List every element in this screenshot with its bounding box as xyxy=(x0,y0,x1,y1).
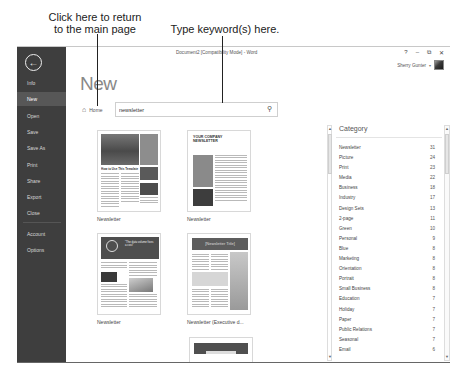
category-item-print[interactable]: Print23 xyxy=(339,163,435,173)
sidebar-item-options[interactable]: Options xyxy=(17,243,66,257)
scroll-down-icon[interactable]: ▼ xyxy=(445,355,449,359)
category-item-design-sets[interactable]: Design Sets13 xyxy=(339,204,435,214)
search-icon[interactable]: ⚲ xyxy=(267,105,272,113)
category-header: Category xyxy=(339,125,367,132)
page-title: New xyxy=(80,73,117,95)
sidebar-item-share[interactable]: Share xyxy=(17,174,66,188)
template-label: Newsletter xyxy=(97,319,121,325)
sidebar-divider xyxy=(23,222,61,223)
home-callout-line1: Click here to return xyxy=(40,11,150,23)
sidebar-item-close[interactable]: Close xyxy=(17,206,66,220)
back-button[interactable]: ← xyxy=(25,54,42,71)
scroll-up-icon[interactable]: ▲ xyxy=(445,127,449,131)
template-thumbnail: How to Use This Template xyxy=(97,130,161,212)
window-controls: ? – ⧉ ✕ xyxy=(404,49,444,56)
restore-icon[interactable]: ⧉ xyxy=(427,49,431,56)
minimize-icon[interactable]: – xyxy=(416,49,419,56)
sidebar-item-open[interactable]: Open xyxy=(17,109,66,123)
category-list: Newsletter31 Picture24 Print23 Media22 B… xyxy=(339,143,435,355)
category-item-email[interactable]: Email6 xyxy=(339,345,435,355)
category-item-industry[interactable]: Industry17 xyxy=(339,193,435,203)
search-input[interactable] xyxy=(119,103,259,116)
close-icon[interactable]: ✕ xyxy=(439,49,444,56)
category-item-green[interactable]: Green10 xyxy=(339,224,435,234)
backstage-sidebar: ← Info New Open Save Save As Print Share… xyxy=(17,47,66,362)
category-item-seasonal[interactable]: Seasonal7 xyxy=(339,335,435,345)
chevron-down-icon: ▾ xyxy=(429,63,431,68)
avatar xyxy=(434,60,444,70)
sidebar-item-new[interactable]: New xyxy=(17,92,66,106)
template-thumbnail: "The data volume fixes a cost" xyxy=(97,233,161,315)
category-item-small-business[interactable]: Small Business8 xyxy=(339,284,435,294)
scroll-up-icon[interactable]: ▲ xyxy=(328,127,331,131)
category-item-business[interactable]: Business18 xyxy=(339,183,435,193)
category-item-public-relations[interactable]: Public Relations7 xyxy=(339,325,435,335)
template-label: Newsletter xyxy=(97,216,121,222)
home-callout-line2: to the main page xyxy=(40,23,150,35)
category-panel: ▲ ▼ Category Newsletter31 Picture24 Prin… xyxy=(327,121,450,363)
search-box: ⚲ xyxy=(115,102,278,117)
category-scrollbar[interactable]: ▲ ▼ xyxy=(444,125,450,361)
category-item-education[interactable]: Education7 xyxy=(339,294,435,304)
category-item-2-page[interactable]: 2-page11 xyxy=(339,214,435,224)
word-backstage-window: ← Info New Open Save Save As Print Share… xyxy=(17,46,450,363)
title-bar: Document2 [Compatibility Mode] - Word ? … xyxy=(66,47,450,59)
template-thumbnail xyxy=(189,337,253,363)
sidebar-item-print[interactable]: Print xyxy=(17,158,66,172)
template-thumbnail: YOUR COMPANY NEWSLETTER xyxy=(187,130,251,212)
user-name: Sherry Gunter xyxy=(397,63,426,68)
scrollbar-thumb[interactable] xyxy=(328,134,332,174)
sidebar-item-save[interactable]: Save xyxy=(17,125,66,139)
category-divider xyxy=(336,137,442,138)
document-title: Document2 [Compatibility Mode] - Word xyxy=(176,50,257,55)
category-item-newsletter[interactable]: Newsletter31 xyxy=(339,143,435,153)
back-arrow-icon: ← xyxy=(29,58,39,68)
category-item-media[interactable]: Media22 xyxy=(339,173,435,183)
category-item-blue[interactable]: Blue8 xyxy=(339,244,435,254)
category-item-marketing[interactable]: Marketing8 xyxy=(339,254,435,264)
sidebar-item-export[interactable]: Export xyxy=(17,190,66,204)
category-item-holiday[interactable]: Holiday7 xyxy=(339,305,435,315)
user-account[interactable]: Sherry Gunter ▾ xyxy=(397,60,444,70)
home-callout-leader xyxy=(97,34,98,106)
category-item-orientation[interactable]: Orientation8 xyxy=(339,264,435,274)
scroll-down-icon[interactable]: ▼ xyxy=(328,355,331,359)
category-item-portrait[interactable]: Portrait8 xyxy=(339,274,435,284)
home-callout: Click here to return to the main page xyxy=(40,11,150,35)
category-item-picture[interactable]: Picture24 xyxy=(339,153,435,163)
template-thumbnail: [Newsletter Title] xyxy=(187,233,251,315)
category-outer-scrollbar[interactable]: ▲ ▼ xyxy=(327,125,332,361)
home-link[interactable]: ⌂ Home xyxy=(82,106,103,113)
sidebar-item-info[interactable]: Info xyxy=(17,76,66,90)
template-label: Newsletter xyxy=(187,216,211,222)
home-label: Home xyxy=(89,107,102,113)
template-label: Newsletter (Executive d... xyxy=(187,319,244,325)
category-item-paper[interactable]: Paper7 xyxy=(339,315,435,325)
category-item-personal[interactable]: Personal9 xyxy=(339,234,435,244)
sidebar-item-save-as[interactable]: Save As xyxy=(17,141,66,155)
sidebar-item-account[interactable]: Account xyxy=(17,227,66,241)
home-icon: ⌂ xyxy=(82,106,86,113)
search-callout: Type keyword(s) here. xyxy=(170,23,280,35)
help-icon[interactable]: ? xyxy=(404,49,407,56)
search-callout-leader xyxy=(222,36,223,103)
scrollbar-thumb[interactable] xyxy=(445,134,449,174)
